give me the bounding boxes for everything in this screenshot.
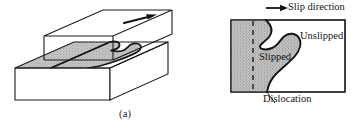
figure-container: (a) (0, 0, 359, 135)
label-dislocation: Dislocation (263, 93, 311, 104)
panel-b: (b) (180, 0, 359, 135)
slip-direction-arrow (266, 5, 288, 11)
label-slipped: Slipped (259, 51, 291, 62)
panel-a: (a) (0, 0, 180, 135)
slip-direction-arrow-head (280, 5, 288, 11)
panel-b-drawing (180, 0, 359, 135)
lower-block (15, 41, 168, 100)
lower-block-front-face (15, 68, 110, 100)
label-slip-direction: Slip direction (288, 1, 345, 12)
panel-a-drawing (0, 0, 180, 135)
upper-block-top-face (44, 10, 172, 36)
label-unslipped: Unslipped (300, 30, 343, 41)
panel-a-caption: (a) (119, 108, 131, 119)
